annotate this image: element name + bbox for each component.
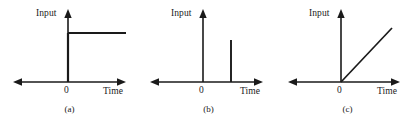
time-axis-label: Time xyxy=(377,87,397,97)
origin-label: 0 xyxy=(64,86,69,96)
panel-caption-a: (a) xyxy=(0,105,139,114)
input-axis-arrowhead xyxy=(337,9,344,18)
input-axis-arrowhead xyxy=(199,9,206,18)
panel-caption-b: (b) xyxy=(139,105,278,114)
time-axis-label: Time xyxy=(103,87,123,97)
panel-impulse: Input 0 Time (b) xyxy=(139,0,278,124)
time-axis-left-arrowhead xyxy=(13,78,22,86)
origin-label: 0 xyxy=(199,86,204,96)
ramp-signal-line xyxy=(341,28,392,82)
time-axis-right-arrowhead xyxy=(391,78,400,86)
input-axis-label: Input xyxy=(36,9,57,19)
panel-step: Input 0 Time (a) xyxy=(0,0,139,124)
panel-caption-c: (c) xyxy=(278,105,417,114)
input-axis-arrowhead xyxy=(64,9,71,18)
panel-ramp: Input 0 Time (c) xyxy=(278,0,417,124)
time-axis-right-arrowhead xyxy=(117,78,126,86)
input-axis-label: Input xyxy=(171,9,192,19)
time-axis-right-arrowhead xyxy=(254,78,263,86)
time-axis-left-arrowhead xyxy=(150,78,159,86)
test-input-signals-figure: Input 0 Time (a) Input 0 Time (b) xyxy=(0,0,417,124)
time-axis-left-arrowhead xyxy=(288,78,297,86)
input-axis-label: Input xyxy=(309,9,330,19)
origin-label: 0 xyxy=(337,86,342,96)
time-axis-label: Time xyxy=(240,87,260,97)
